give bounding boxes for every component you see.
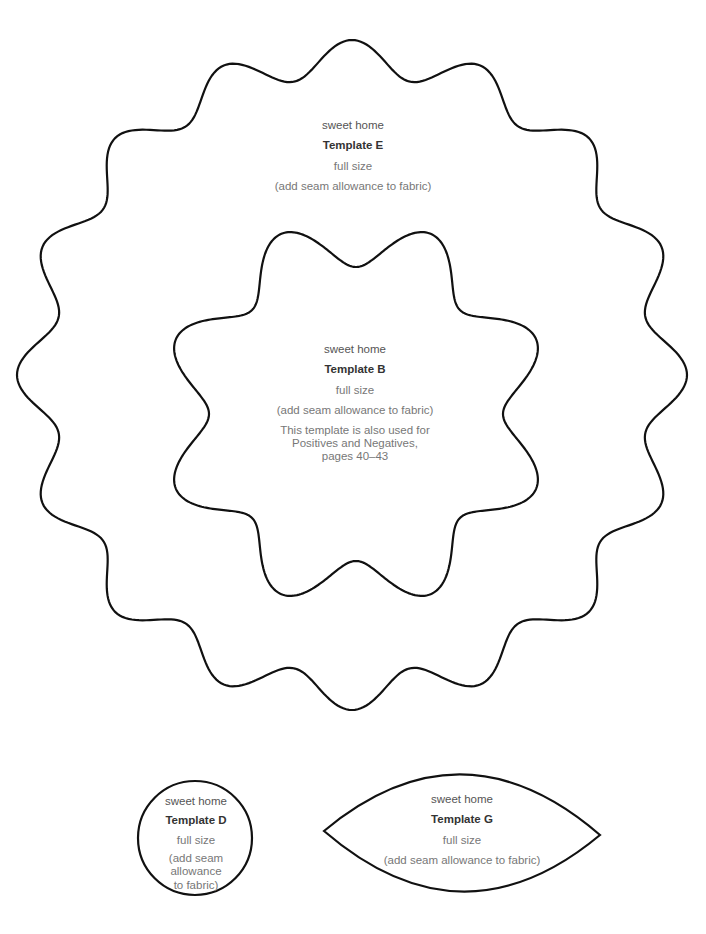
template-d-label: sweet home Template D full size (add sea…: [140, 794, 252, 892]
template-g-brand: sweet home: [340, 792, 584, 806]
template-g-seam: (add seam allowance to fabric): [340, 853, 584, 867]
template-b-size: full size: [205, 383, 505, 397]
template-b-note-2: Positives and Negatives,: [205, 437, 505, 450]
template-b-title: Template B: [205, 362, 505, 376]
template-d-seam-1: (add seam: [140, 852, 252, 865]
template-b-note-3: pages 40–43: [205, 450, 505, 463]
template-b-brand: sweet home: [205, 342, 505, 356]
template-e-label: sweet home Template E full size (add sea…: [200, 118, 506, 200]
template-e-size: full size: [200, 159, 506, 173]
template-b-seam: (add seam allowance to fabric): [205, 403, 505, 417]
template-g-size: full size: [340, 833, 584, 847]
template-d-seam-2: allowance: [140, 865, 252, 878]
template-e-seam: (add seam allowance to fabric): [200, 179, 506, 193]
template-e-title: Template E: [200, 138, 506, 152]
template-d-title: Template D: [140, 813, 252, 827]
template-d-seam-3: to fabric): [140, 879, 252, 892]
template-d-brand: sweet home: [140, 794, 252, 808]
template-b-label: sweet home Template B full size (add sea…: [205, 342, 505, 463]
template-g-label: sweet home Template G full size (add sea…: [340, 792, 584, 874]
template-g-title: Template G: [340, 812, 584, 826]
template-b-note-1: This template is also used for: [205, 424, 505, 437]
template-d-size: full size: [140, 833, 252, 847]
template-e-brand: sweet home: [200, 118, 506, 132]
